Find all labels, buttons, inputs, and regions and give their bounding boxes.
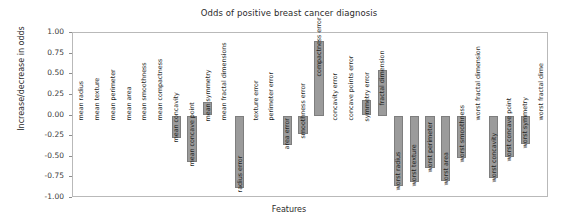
bar-label: symmetry error: [363, 72, 369, 121]
plot-area: mean radiusmean texturemean perimetermea…: [72, 32, 548, 197]
bar-label: smoothness error: [300, 84, 306, 139]
bar-label: mean perimeter: [109, 69, 115, 120]
bar-label: worst radius: [395, 152, 401, 191]
bar-label: mean area: [125, 86, 131, 120]
y-axis-tick-label: -0.25: [45, 130, 64, 139]
bar-label: mean compactness: [157, 58, 163, 120]
bar-label: mean fractal dimensions: [220, 42, 226, 120]
bar-label: worst texture: [411, 144, 417, 186]
bar-label: worst symmetry: [522, 97, 528, 148]
bar-label: area error: [284, 118, 290, 149]
bar-label: worst perimeter: [427, 122, 433, 173]
bar-label: compactness error: [316, 18, 322, 77]
y-axis-tick-label: 0.25: [47, 89, 64, 98]
bar-label: worst fractal dime: [538, 63, 544, 120]
y-axis-tick-label: -0.75: [45, 171, 64, 180]
bar-label: worst area: [442, 152, 448, 185]
chart-title: Odds of positive breast cancer diagnosis: [0, 8, 578, 18]
bar-label: concave points error: [347, 55, 353, 120]
bar-label: texture error: [252, 80, 258, 120]
y-axis-tick-label: 1.00: [47, 27, 64, 36]
bar-label: mean symmetry: [204, 69, 210, 121]
bar-label: worst concave point: [506, 98, 512, 162]
bar-label: mean radius: [78, 81, 84, 120]
chart-figure: Odds of positive breast cancer diagnosis…: [0, 0, 578, 220]
y-axis-tick-label: 0.75: [47, 48, 64, 57]
x-axis-label: Features: [0, 205, 578, 214]
y-axis-tick-label: -1.00: [45, 192, 64, 201]
bar-label: mean smoothness: [141, 62, 147, 120]
bars-container: mean radiusmean texturemean perimetermea…: [73, 33, 547, 196]
bar-label: concavity error: [331, 72, 337, 120]
bar-label: radius error: [236, 156, 242, 193]
y-axis-tick-label: 0.50: [47, 68, 64, 77]
bar-label: perimeter error: [268, 72, 274, 120]
y-axis-tick-mark: [69, 197, 72, 198]
y-axis-label: Increase/decrease in odds: [17, 14, 26, 144]
y-axis-tick-label: -0.50: [45, 151, 64, 160]
bar-label: worst fractal dimension: [474, 46, 480, 120]
bar-label: worst concavity: [490, 133, 496, 183]
bar-label: mean concavity: [173, 92, 179, 142]
bar-label: worst smoothness: [458, 105, 464, 162]
bar-label: fractal dimension: [379, 51, 385, 106]
bar-label: mean concave point: [189, 102, 195, 166]
bar-label: mean texture: [93, 77, 99, 120]
y-axis-tick-label: 0.00: [47, 110, 64, 119]
